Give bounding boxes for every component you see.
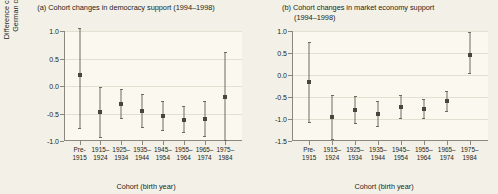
error-bar-cap-top [78, 28, 81, 29]
x-axis-tick-label-line: 1925– [112, 146, 130, 154]
panel-b-x-axis-title: Cohort (birth year) [252, 182, 498, 191]
error-bar-cap-top [308, 42, 311, 43]
x-axis-tick-label-line: 1924 [92, 154, 110, 162]
panel-b-y-axis [292, 31, 293, 141]
x-axis-tick-label: 1945–1954 [154, 146, 172, 161]
data-point-marker [161, 114, 165, 118]
y-axis-tick [288, 31, 292, 32]
x-axis-tick-label-line: 1945– [154, 146, 172, 154]
error-bar-cap-bottom [99, 137, 102, 138]
y-axis-tick [288, 141, 292, 142]
error-bar-cap-top [141, 94, 144, 95]
data-point-marker [445, 99, 449, 103]
x-axis-tick-label: 1935–1944 [369, 146, 387, 161]
y-axis-tick-label: 0.5 [277, 50, 287, 57]
x-axis-tick-label-line: 1945– [392, 146, 410, 154]
x-axis-tick-label-line: 1924 [323, 154, 341, 162]
error-bar-cap-bottom [422, 118, 425, 119]
error-bar-cap-bottom [161, 130, 164, 131]
error-bar-cap-bottom [224, 140, 227, 141]
x-axis-tick-label: 1955–1964 [175, 146, 193, 161]
x-axis-tick-label: Pre-1915 [302, 146, 316, 161]
x-axis-tick-label-line: 1944 [369, 154, 387, 162]
x-axis-tick-label-line: 1925– [346, 146, 364, 154]
gridline [293, 119, 488, 120]
gridline [293, 75, 488, 76]
x-axis-tick-label-line: 1915– [323, 146, 341, 154]
x-axis-tick-label-line: 1964 [175, 154, 193, 162]
figure: (a) Cohort changes in democracy support … [0, 0, 498, 194]
error-bar-cap-top [120, 89, 123, 90]
x-axis-tick [309, 141, 310, 145]
panel-b-x-axis [292, 140, 488, 141]
error-bar-cap-bottom [120, 118, 123, 119]
error-bar-cap-bottom [445, 111, 448, 112]
x-axis-tick-label: 1975–1984 [216, 146, 234, 161]
x-axis-tick-label: Pre-1915 [73, 146, 87, 161]
gridline [65, 59, 242, 60]
panel-a: (a) Cohort changes in democracy support … [0, 0, 252, 194]
error-bar-cap-bottom [308, 122, 311, 123]
y-axis-tick-label: 0.0 [277, 72, 287, 79]
x-axis-tick-label-line: 1984 [461, 154, 479, 162]
error-bar-cap-top [161, 101, 164, 102]
panel-b: (b) Cohort changes in market economy sup… [252, 0, 498, 194]
error-bar-cap-top [203, 101, 206, 102]
x-axis-tick-label-line: 1955– [175, 146, 193, 154]
x-axis-tick-label-line: 1954 [392, 154, 410, 162]
x-axis-tick-label: 1965–1974 [438, 146, 456, 161]
error-bar-cap-bottom [203, 136, 206, 137]
y-axis-tick-label: -1.0 [47, 138, 59, 145]
error-bar-cap-bottom [78, 128, 81, 129]
data-point-marker [78, 73, 82, 77]
x-axis-tick-label-line: Pre- [73, 146, 87, 154]
x-axis-tick [142, 141, 143, 145]
gridline [65, 86, 242, 87]
panel-a-plot-area: 1.00.50.0-0.5-1.0Pre-19151915–19241925–1… [64, 31, 242, 141]
y-axis-tick-label: 1.0 [49, 28, 59, 35]
data-point-marker [376, 112, 380, 116]
panel-b-title-line2: (1994–1998) [282, 13, 498, 23]
gridline [293, 53, 488, 54]
x-axis-tick-label-line: 1964 [415, 154, 433, 162]
error-bar-cap-top [224, 52, 227, 53]
x-axis-tick [470, 141, 471, 145]
y-axis-tick [288, 75, 292, 76]
x-axis-tick [184, 141, 185, 145]
error-bar-cap-top [445, 91, 448, 92]
y-axis-tick [60, 59, 64, 60]
data-point-marker [223, 95, 227, 99]
panel-b-title: (b) Cohort changes in market economy sup… [252, 3, 498, 22]
y-axis-tick-label: 1.0 [277, 28, 287, 35]
y-axis-tick [60, 31, 64, 32]
y-axis-tick-label: -0.5 [275, 94, 287, 101]
error-bar-cap-top [182, 106, 185, 107]
x-axis-tick-label-line: 1974 [196, 154, 214, 162]
x-axis-tick [205, 141, 206, 145]
data-point-marker [353, 108, 357, 112]
x-axis-tick-label: 1955–1964 [415, 146, 433, 161]
y-axis-tick [60, 141, 64, 142]
panel-a-title: (a) Cohort changes in democracy support … [0, 3, 252, 13]
panel-b-plot-area: 1.00.50.0-0.5-1.0-1.5Pre-19151915–192419… [292, 31, 488, 141]
data-point-marker [119, 102, 123, 106]
error-bar-cap-top [354, 96, 357, 97]
x-axis-tick-label-line: 1935– [133, 146, 151, 154]
x-axis-tick [378, 141, 379, 145]
data-point-marker [182, 118, 186, 122]
y-axis-tick [288, 97, 292, 98]
panel-a-y-axis-title: Difference change in East-West German co… [2, 0, 20, 44]
x-axis-tick-label-line: Pre- [302, 146, 316, 154]
x-axis-tick [163, 141, 164, 145]
x-axis-tick [225, 141, 226, 145]
x-axis-tick [424, 141, 425, 145]
error-bar-cap-bottom [399, 118, 402, 119]
x-axis-tick-label-line: 1975– [461, 146, 479, 154]
x-axis-tick [355, 141, 356, 145]
y-axis-title-line1: Difference change in East-West [2, 0, 11, 44]
data-point-marker [140, 109, 144, 113]
error-bar-cap-top [422, 99, 425, 100]
x-axis-tick-label: 1915–1924 [323, 146, 341, 161]
y-axis-tick-label: 0.5 [49, 55, 59, 62]
y-axis-tick [288, 53, 292, 54]
